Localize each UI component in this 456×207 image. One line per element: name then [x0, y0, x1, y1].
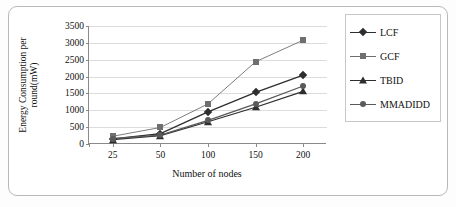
legend-label: TBID	[376, 75, 403, 86]
x-tick-label: 25	[108, 150, 118, 160]
data-point-gcf-100	[205, 101, 211, 107]
data-point-mmadidd-100	[205, 117, 211, 123]
y-axis-label: Energy Consumption per round(mW)	[18, 26, 40, 144]
data-point-mmadidd-200	[300, 83, 306, 89]
legend-item-gcf[interactable]: GCF	[350, 44, 436, 68]
y-tick-label: 1000	[65, 105, 84, 115]
x-tick-label: 100	[201, 150, 215, 160]
legend-marker-diamond-icon	[359, 28, 367, 36]
data-point-mmadidd-25	[110, 136, 116, 142]
legend-item-mmadidd[interactable]: MMADIDD	[350, 92, 436, 116]
legend-item-lcf[interactable]: LCF	[350, 20, 436, 44]
plot-area: 0500100015002000250030003500 25501001502…	[88, 26, 326, 144]
y-tick-label: 2000	[65, 72, 84, 82]
chart-figure: Energy Consumption per round(mW) 0500100…	[0, 0, 456, 207]
data-point-gcf-200	[300, 37, 306, 43]
legend-swatch-circle-icon	[350, 97, 376, 111]
legend-swatch-square-icon	[350, 49, 376, 63]
legend-label: MMADIDD	[376, 99, 430, 110]
legend-swatch-diamond-icon	[350, 25, 376, 39]
series-lines	[89, 26, 327, 144]
legend-marker-circle-icon	[360, 101, 366, 107]
x-tick-label: 200	[296, 150, 310, 160]
legend-swatch-triangle-icon	[350, 73, 376, 87]
y-tick-label: 2500	[65, 55, 84, 65]
legend-item-tbid[interactable]: TBID	[350, 68, 436, 92]
y-tick-label: 1500	[65, 88, 84, 98]
x-axis-label: Number of nodes	[88, 168, 326, 179]
y-tick-label: 3500	[65, 21, 84, 31]
y-tick-label: 3000	[65, 38, 84, 48]
x-tick-label: 50	[156, 150, 166, 160]
x-tick-label: 150	[248, 150, 262, 160]
y-tick-label: 0	[79, 139, 84, 149]
legend-label: LCF	[376, 27, 398, 38]
legend-label: GCF	[376, 51, 399, 62]
legend-marker-square-icon	[360, 53, 366, 59]
legend-marker-triangle-icon	[359, 77, 367, 84]
data-point-gcf-150	[253, 59, 259, 65]
y-tick-label: 500	[70, 122, 84, 132]
chart-legend: LCFGCFTBIDMMADIDD	[345, 14, 441, 122]
y-axis-label-text: Energy Consumption per round(mW)	[18, 26, 40, 144]
data-point-gcf-50	[157, 124, 163, 130]
data-point-mmadidd-150	[253, 101, 259, 107]
data-point-mmadidd-50	[157, 132, 163, 138]
